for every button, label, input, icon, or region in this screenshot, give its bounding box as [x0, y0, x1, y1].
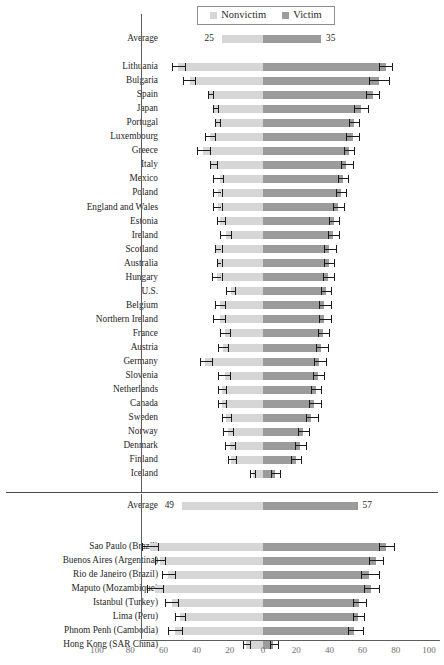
row-label-p1-2: Spain [137, 89, 158, 100]
errorbar-nonvictim [228, 459, 236, 460]
errorbar-cap [222, 273, 223, 281]
errorbar-cap [222, 414, 223, 422]
errorbar-victim [338, 178, 348, 179]
errorbar-cap [231, 414, 232, 422]
errorbar-victim [353, 602, 366, 603]
errorbar-cap [222, 189, 223, 197]
errorbar-cap [218, 105, 219, 113]
errorbar-cap [344, 203, 345, 211]
errorbar-victim [348, 630, 363, 631]
errorbar-cap [324, 259, 325, 267]
errorbar-nonvictim [218, 347, 228, 348]
row-label-p1-20: Austria [131, 342, 158, 353]
errorbar-cap [394, 543, 395, 551]
row-label-p1-7: Italy [141, 159, 158, 170]
bar-nonvictim [217, 273, 263, 281]
x-tick-label-8: 60 [351, 645, 375, 655]
legend-swatch-victim [282, 12, 289, 19]
chart-row: Average4957 [0, 500, 444, 511]
bar-victim [263, 543, 386, 551]
errorbar-cap [361, 571, 362, 579]
chart-row: Italy [0, 159, 444, 170]
chart-row: Iceland [0, 468, 444, 479]
errorbar-cap [230, 329, 231, 337]
chart-row: Finland [0, 454, 444, 465]
errorbar-victim [366, 94, 379, 95]
bar-nonvictim [175, 627, 263, 635]
row-label-p1-29: Iceland [131, 468, 158, 479]
bar-nonvictim [231, 287, 263, 295]
errorbar-victim [314, 361, 326, 362]
errorbar-victim [316, 347, 328, 348]
errorbar-cap [222, 245, 223, 253]
errorbar-cap [314, 358, 315, 366]
errorbar-cap [321, 400, 322, 408]
row-label-p1-25: Sweden [129, 412, 158, 423]
errorbar-nonvictim [215, 305, 225, 306]
errorbar-cap [306, 414, 307, 422]
chart-row: Poland [0, 187, 444, 198]
errorbar-cap [175, 613, 176, 621]
errorbar-cap [220, 119, 221, 127]
errorbar-cap [334, 273, 335, 281]
bar-nonvictim [168, 571, 263, 579]
errorbar-cap [185, 613, 186, 621]
errorbar-cap [369, 557, 370, 565]
row-label-p2-avg: Average [127, 500, 158, 511]
bar-nonvictim [205, 358, 263, 366]
errorbar-cap [226, 400, 227, 408]
errorbar-victim [369, 560, 382, 561]
chart-row: Istanbul (Turkey) [0, 597, 444, 608]
errorbar-cap [353, 161, 354, 169]
errorbar-victim [311, 389, 321, 390]
errorbar-nonvictim [162, 574, 175, 575]
row-label-p1-28: Finland [130, 454, 158, 465]
x-axis-line [141, 640, 440, 641]
errorbar-cap [163, 585, 164, 593]
errorbar-nonvictim [223, 431, 233, 432]
errorbar-cap [213, 203, 214, 211]
errorbar-cap [321, 287, 322, 295]
errorbar-cap [183, 77, 184, 85]
errorbar-cap [222, 203, 223, 211]
bar-victim [263, 203, 338, 211]
row-label-p2-6: Phnom Penh (Cambodia) [64, 625, 158, 636]
row-label-p1-19: France [133, 328, 158, 339]
errorbar-nonvictim [200, 361, 212, 362]
errorbar-victim [344, 150, 354, 151]
errorbar-cap [200, 358, 201, 366]
x-tick-label-7: 40 [317, 645, 341, 655]
bar-nonvictim [150, 543, 263, 551]
errorbar-cap [353, 613, 354, 621]
errorbar-cap [379, 91, 380, 99]
chart-row: Hungary [0, 272, 444, 283]
chart-row: Canada [0, 398, 444, 409]
errorbar-cap [329, 217, 330, 225]
errorbar-cap [197, 147, 198, 155]
errorbar-cap [255, 470, 256, 478]
chart-row: Austria [0, 342, 444, 353]
errorbar-victim [318, 333, 330, 334]
errorbar-cap [226, 287, 227, 295]
bar-nonvictim [155, 585, 263, 593]
errorbar-cap [359, 119, 360, 127]
errorbar-nonvictim [197, 150, 210, 151]
bar-nonvictim [180, 613, 263, 621]
errorbar-cap [333, 203, 334, 211]
bar-victim [263, 613, 358, 621]
errorbar-nonvictim [147, 588, 164, 589]
errorbar-cap [235, 442, 236, 450]
errorbar-cap [318, 414, 319, 422]
errorbar-cap [217, 161, 218, 169]
row-label-p1-6: Greece [132, 145, 158, 156]
errorbar-victim [364, 588, 379, 589]
errorbar-cap [311, 386, 312, 394]
errorbar-cap [185, 63, 186, 71]
errorbar-cap [363, 627, 364, 635]
row-label-p1-8: Mexico [130, 173, 158, 184]
bar-nonvictim [223, 344, 263, 352]
row-label-p1-9: Poland [132, 187, 158, 198]
legend-label-victim: Victim [293, 10, 322, 21]
errorbar-cap [369, 77, 370, 85]
row-label-p1-23: Netherlands [113, 384, 158, 395]
